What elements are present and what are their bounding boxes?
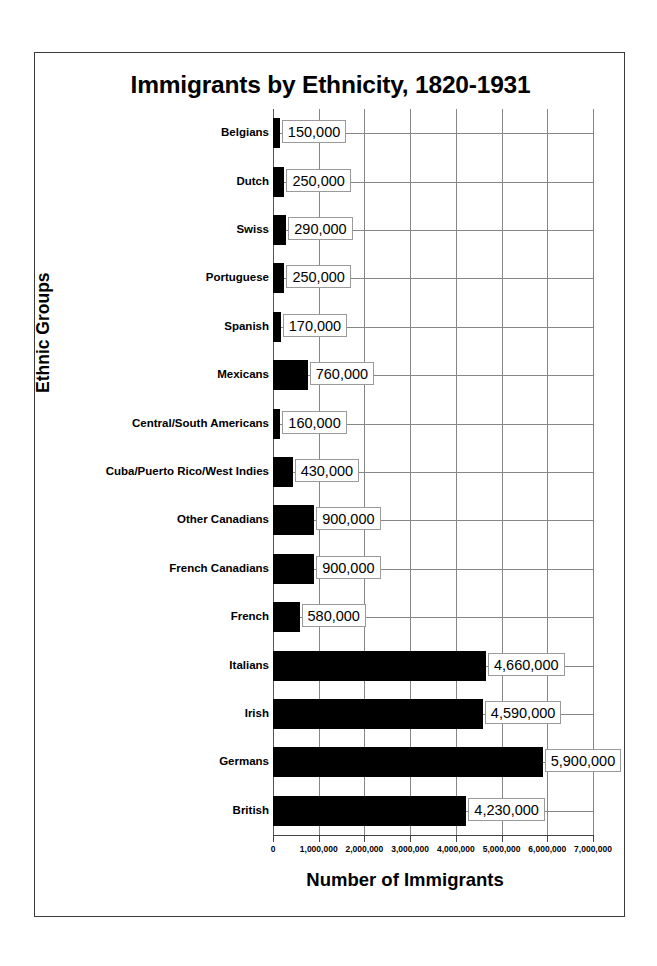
- bar-value-label: 900,000: [316, 507, 380, 530]
- bar[interactable]: [273, 215, 286, 245]
- category-label: French Canadians: [41, 562, 273, 574]
- category-label: Other Canadians: [41, 513, 273, 525]
- x-axis-line: [273, 835, 593, 836]
- x-axis-title: Number of Immigrants: [215, 869, 595, 891]
- x-axis-tick: [456, 835, 457, 842]
- bar-row[interactable]: 250,000: [273, 167, 593, 197]
- category-label-layer: BelgiansDutchSwissPortugueseSpanishMexic…: [35, 109, 273, 835]
- bar[interactable]: [273, 118, 280, 148]
- bar-row[interactable]: 4,230,000: [273, 796, 593, 826]
- bar-row[interactable]: 4,590,000: [273, 699, 593, 729]
- bar-row[interactable]: 170,000: [273, 312, 593, 342]
- bar[interactable]: [273, 505, 314, 535]
- bar-row[interactable]: 290,000: [273, 215, 593, 245]
- bar-row[interactable]: 160,000: [273, 409, 593, 439]
- x-axis-tick: [364, 835, 365, 842]
- x-axis-tick-label: 0: [271, 844, 276, 854]
- bar[interactable]: [273, 263, 284, 293]
- x-axis-tick: [319, 835, 320, 842]
- bar-row[interactable]: 150,000: [273, 118, 593, 148]
- x-axis-tick: [547, 835, 548, 842]
- bar-value-label: 580,000: [302, 604, 366, 627]
- bar[interactable]: [273, 360, 308, 390]
- x-axis-tick: [502, 835, 503, 842]
- bar-value-label: 4,660,000: [488, 653, 565, 676]
- bar-value-label: 5,900,000: [545, 749, 622, 772]
- bar-row[interactable]: 580,000: [273, 602, 593, 632]
- bar-value-label: 290,000: [288, 217, 352, 240]
- category-label: French: [41, 610, 273, 622]
- bar[interactable]: [273, 312, 281, 342]
- category-label: Spanish: [41, 320, 273, 332]
- chart-title: Immigrants by Ethnicity, 1820-1931: [35, 71, 626, 99]
- bar-row[interactable]: 900,000: [273, 505, 593, 535]
- bar-value-label: 4,230,000: [468, 798, 545, 821]
- category-label: Cuba/Puerto Rico/West Indies: [41, 465, 273, 477]
- bar[interactable]: [273, 796, 466, 826]
- bar[interactable]: [273, 699, 483, 729]
- x-axis-tick-label: 5,000,000: [483, 844, 521, 854]
- bar[interactable]: [273, 167, 284, 197]
- category-label: Belgians: [41, 126, 273, 138]
- bar-row[interactable]: 760,000: [273, 360, 593, 390]
- bar-value-label: 150,000: [282, 120, 346, 143]
- bar-value-label: 4,590,000: [485, 701, 562, 724]
- bar-row[interactable]: 430,000: [273, 457, 593, 487]
- bar-value-label: 170,000: [283, 314, 347, 337]
- category-label: British: [41, 804, 273, 816]
- x-axis-tick: [593, 835, 594, 842]
- x-axis-tick: [410, 835, 411, 842]
- bar[interactable]: [273, 651, 486, 681]
- bar-row[interactable]: 900,000: [273, 554, 593, 584]
- category-label: Dutch: [41, 175, 273, 187]
- bar-row[interactable]: 5,900,000: [273, 747, 593, 777]
- x-axis-tick-label: 3,000,000: [391, 844, 429, 854]
- x-axis-tick: [273, 835, 274, 842]
- x-axis-tick-label: 6,000,000: [528, 844, 566, 854]
- bar-value-label: 160,000: [282, 411, 346, 434]
- x-axis-tick-label: 4,000,000: [437, 844, 475, 854]
- chart-frame: Immigrants by Ethnicity, 1820-1931 Ethni…: [34, 52, 625, 917]
- x-axis-tick-label: 7,000,000: [574, 844, 612, 854]
- category-label: Germans: [41, 755, 273, 767]
- category-label: Mexicans: [41, 368, 273, 380]
- x-axis-tick-label: 1,000,000: [300, 844, 338, 854]
- bar-value-label: 250,000: [286, 169, 350, 192]
- x-axis-tick-label: 2,000,000: [346, 844, 384, 854]
- bar-value-label: 250,000: [286, 265, 350, 288]
- bar-value-label: 760,000: [310, 362, 374, 385]
- category-label: Italians: [41, 659, 273, 671]
- bar-value-label: 430,000: [295, 459, 359, 482]
- category-label: Central/South Americans: [41, 417, 273, 429]
- bar[interactable]: [273, 747, 543, 777]
- bar[interactable]: [273, 409, 280, 439]
- bar[interactable]: [273, 457, 293, 487]
- bar-row[interactable]: 4,660,000: [273, 651, 593, 681]
- bar-row[interactable]: 250,000: [273, 263, 593, 293]
- bar[interactable]: [273, 602, 300, 632]
- plot-area: 150,000250,000290,000250,000170,000760,0…: [273, 109, 593, 835]
- category-label: Swiss: [41, 223, 273, 235]
- category-label: Irish: [41, 707, 273, 719]
- category-label: Portuguese: [41, 271, 273, 283]
- bar-value-label: 900,000: [316, 556, 380, 579]
- bar[interactable]: [273, 554, 314, 584]
- gridline-vertical: [593, 109, 594, 835]
